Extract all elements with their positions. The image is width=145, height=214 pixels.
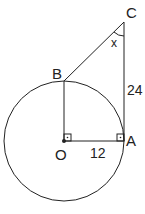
label-O: O [55, 146, 67, 163]
length-CA: 24 [127, 82, 143, 98]
right-angle-marker-A [117, 134, 124, 141]
label-C: C [126, 4, 137, 21]
segment-BC [64, 22, 124, 81]
length-OA: 12 [90, 145, 106, 161]
angle-label-x: x [111, 36, 117, 50]
label-B: B [52, 65, 62, 82]
center-point [62, 139, 66, 143]
geometry-diagram: C B A O x 24 12 [0, 0, 145, 214]
label-A: A [126, 132, 136, 149]
